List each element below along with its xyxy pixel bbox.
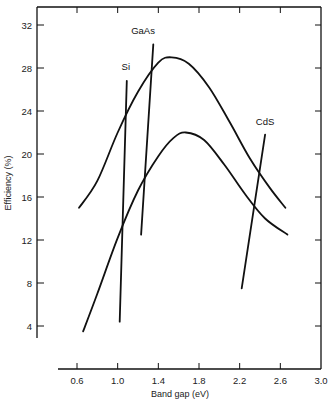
x-tick: 3.0 [314, 375, 327, 386]
y-tick-label: 20 [21, 149, 32, 160]
y-tick: 12 [21, 235, 321, 246]
series-label: GaAs [131, 25, 155, 36]
x-axis-ticks: 0.61.01.41.82.22.63.0 [70, 7, 327, 386]
series-lower-efficiency-curve [83, 132, 287, 331]
series-line [120, 81, 127, 322]
x-tick-label: 0.6 [70, 375, 83, 386]
series-layer: SiGaAsCdS [79, 25, 287, 332]
y-tick: 24 [21, 106, 321, 117]
x-tick-label: 1.0 [111, 375, 124, 386]
series-si: Si [120, 61, 130, 322]
y-tick-label: 8 [27, 278, 32, 289]
y-tick: 20 [21, 149, 321, 160]
plot-frame [37, 7, 321, 369]
series-line [242, 135, 265, 289]
x-tick: 2.2 [233, 7, 246, 386]
y-tick-label: 32 [21, 20, 32, 31]
series-gaas: GaAs [131, 25, 155, 235]
x-tick-label: 2.6 [274, 375, 287, 386]
x-tick-label: 2.2 [233, 375, 246, 386]
x-tick-label: 3.0 [314, 375, 327, 386]
y-tick: 32 [21, 20, 321, 31]
y-tick-label: 24 [21, 106, 32, 117]
efficiency-vs-bandgap-chart: 0.61.01.41.82.22.63.0 48121620242832 SiG… [0, 0, 331, 405]
y-axis-title: Efficiency (%) [3, 156, 13, 211]
x-axis-title: Band gap (eV) [151, 389, 209, 399]
y-tick-label: 12 [21, 235, 32, 246]
y-tick-label: 16 [21, 192, 32, 203]
series-line [141, 44, 153, 234]
x-tick-label: 1.8 [192, 375, 205, 386]
x-tick-label: 1.4 [152, 375, 165, 386]
x-tick: 0.6 [70, 7, 83, 386]
series-label: Si [122, 61, 130, 72]
y-tick: 28 [21, 63, 321, 74]
y-axis-ticks: 48121620242832 [21, 20, 321, 332]
series-line [83, 132, 287, 331]
y-tick: 8 [27, 278, 321, 289]
y-tick: 4 [27, 321, 321, 332]
series-label: CdS [256, 116, 274, 127]
series-cds: CdS [242, 116, 275, 288]
x-tick: 1.8 [192, 7, 205, 386]
y-tick-label: 28 [21, 63, 32, 74]
y-tick-label: 4 [27, 321, 32, 332]
